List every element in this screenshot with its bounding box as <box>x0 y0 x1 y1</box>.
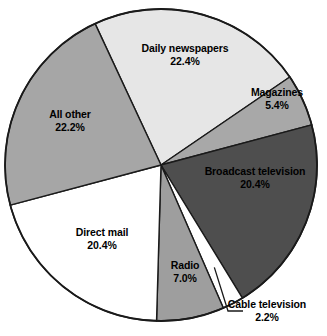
pie-chart: Daily newspapers 22.4% Magazines 5.4% Br… <box>0 0 327 336</box>
slice-label-name: Magazines <box>114 86 327 99</box>
slice-label-name: Broadcast television <box>92 165 327 178</box>
slice-label-name: Direct mail <box>0 226 266 239</box>
slice-label-cable-television: Cable television 2.2% <box>104 298 327 323</box>
slice-label-value: 2.2% <box>104 311 327 324</box>
slice-label-name: Radio <box>22 259 327 272</box>
slice-label-value: 7.0% <box>22 272 327 285</box>
slice-label-name: All other <box>0 108 234 121</box>
slice-label-daily-newspapers: Daily newspapers 22.4% <box>22 42 327 67</box>
slice-label-value: 22.2% <box>0 121 234 134</box>
slice-label-direct-mail: Direct mail 20.4% <box>0 226 266 251</box>
slice-label-value: 20.4% <box>92 178 327 191</box>
slice-label-broadcast-television: Broadcast television 20.4% <box>92 165 327 190</box>
slice-label-name: Cable television <box>104 298 327 311</box>
slice-label-value: 22.4% <box>22 55 327 68</box>
slice-label-value: 20.4% <box>0 239 266 252</box>
slice-label-radio: Radio 7.0% <box>22 259 327 284</box>
slice-label-name: Daily newspapers <box>22 42 327 55</box>
slice-label-all-other: All other 22.2% <box>0 108 234 133</box>
